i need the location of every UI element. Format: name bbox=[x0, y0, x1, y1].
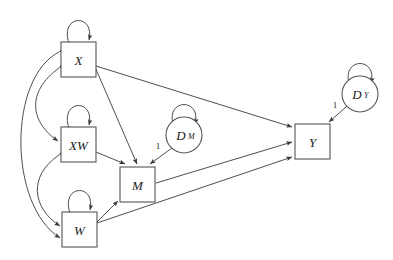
path-diagram-canvas: X XW W M Y bbox=[0, 0, 393, 260]
variance-loop-xw bbox=[67, 106, 89, 126]
node-m-label: M bbox=[131, 178, 144, 193]
node-w-label: W bbox=[74, 223, 86, 238]
path-edge-dm-to-m bbox=[150, 148, 172, 164]
covariance-edge-x-xw bbox=[36, 68, 59, 141]
node-dm[interactable]: D M bbox=[166, 117, 202, 153]
edge-label-dy-to-y: 1 bbox=[333, 100, 338, 110]
variance-loop-w bbox=[68, 191, 90, 211]
path-edge-xw-to-m bbox=[96, 152, 125, 164]
edge-label-dm-to-m: 1 bbox=[156, 141, 161, 151]
node-dm-subscript: M bbox=[187, 132, 196, 141]
path-edge-x-to-m bbox=[95, 67, 137, 164]
covariance-edge-x-w bbox=[21, 52, 60, 238]
nodes-group: X XW W M Y bbox=[61, 42, 378, 247]
node-xw-label: XW bbox=[68, 138, 89, 153]
node-dy-label: D bbox=[351, 87, 362, 102]
covariance-edge-xw-w bbox=[37, 155, 60, 226]
node-xw[interactable]: XW bbox=[61, 127, 96, 162]
node-x[interactable]: X bbox=[61, 42, 96, 77]
node-y[interactable]: Y bbox=[295, 124, 330, 159]
variance-loop-x bbox=[67, 21, 89, 41]
path-edge-dy-to-y bbox=[329, 106, 347, 122]
sem-diagram-svg: X XW W M Y bbox=[0, 0, 393, 260]
node-m[interactable]: M bbox=[120, 167, 155, 202]
node-w[interactable]: W bbox=[62, 212, 97, 247]
node-dy[interactable]: D Y bbox=[342, 76, 378, 112]
node-x-label: X bbox=[74, 53, 84, 68]
path-edge-w-to-m bbox=[97, 201, 118, 222]
path-edge-x-to-y bbox=[96, 66, 292, 127]
covariance-edges-group bbox=[21, 52, 60, 238]
node-dm-label: D bbox=[175, 128, 186, 143]
